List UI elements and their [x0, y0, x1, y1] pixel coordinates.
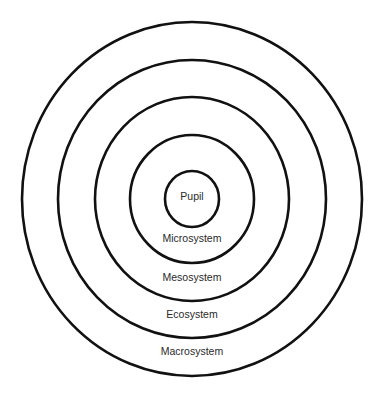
pupil-label: Pupil [180, 190, 203, 202]
mesosystem-label: Mesosystem [163, 271, 222, 283]
concentric-systems-diagram: Pupil Microsystem Mesosystem Ecosystem M… [0, 0, 380, 395]
macrosystem-label: Macrosystem [161, 345, 224, 357]
microsystem-label: Microsystem [163, 232, 222, 244]
ecosystem-label: Ecosystem [166, 308, 218, 320]
